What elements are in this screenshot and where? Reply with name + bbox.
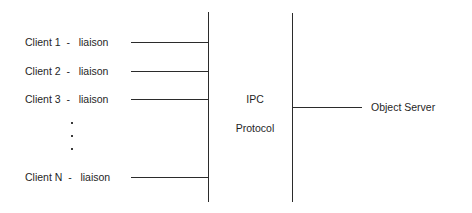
client-row: Client 2 - liaison: [0, 64, 472, 78]
vertical-ellipsis-dot: [71, 122, 73, 124]
client-boundary-line: [208, 12, 209, 202]
client-connector-line: [131, 177, 209, 178]
client-label: Client 3 - liaison: [25, 92, 108, 106]
vertical-ellipsis-dot: [71, 148, 73, 150]
client-label: Client N - liaison: [25, 170, 110, 184]
client-connector-line: [131, 42, 209, 43]
ipc-label: IPC: [225, 93, 285, 105]
object-server-label: Object Server: [371, 101, 435, 113]
vertical-ellipsis-dot: [71, 135, 73, 137]
protocol-label: Protocol: [225, 122, 285, 134]
client-label: Client 2 - liaison: [25, 64, 108, 78]
client-connector-line: [131, 71, 209, 72]
ipc-architecture-diagram: Client 1 - liaison Client 2 - liaison Cl…: [0, 0, 472, 213]
client-label: Client 1 - liaison: [25, 35, 108, 49]
client-connector-line: [131, 99, 209, 100]
client-row: Client 1 - liaison: [0, 35, 472, 49]
client-row: Client N - liaison: [0, 170, 472, 184]
server-connector-line: [292, 107, 362, 108]
